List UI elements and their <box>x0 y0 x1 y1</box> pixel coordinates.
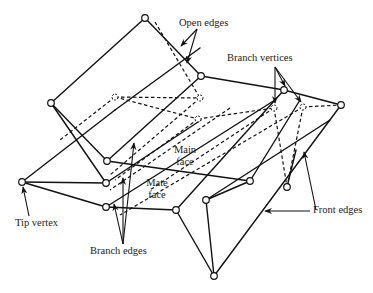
label-main-face-line2: face <box>170 156 200 168</box>
label-main-face-line1: Main <box>170 144 200 156</box>
vertex-O <box>173 207 180 214</box>
vertex-T <box>211 273 218 280</box>
vertex-K-tip <box>19 179 26 186</box>
vertex-E <box>338 102 345 109</box>
vertex-L <box>104 158 111 165</box>
vertex-H <box>195 116 201 122</box>
label-branch-vertices: Branch vertices <box>227 52 293 64</box>
label-mate-face-line1: Mate <box>142 177 172 189</box>
vertex-N <box>103 204 110 211</box>
branch-vertex-J <box>300 104 306 110</box>
label-front-edges: Front edges <box>313 204 362 216</box>
vertex-R <box>203 197 210 204</box>
vertex-A <box>142 15 149 22</box>
vertex-M <box>103 180 110 187</box>
label-tip-vertex: Tip vertex <box>15 217 58 229</box>
branch-vertex-D <box>281 87 288 94</box>
vertex-G <box>197 95 203 101</box>
label-mate-face-line2: face <box>142 189 172 201</box>
vertex-C <box>198 73 205 80</box>
vertex-B <box>48 100 55 107</box>
label-main-face: Main face <box>170 144 200 168</box>
label-open-edges: Open edges <box>179 17 228 29</box>
vertex-F <box>112 94 118 100</box>
vertex-P <box>247 178 254 185</box>
branch-vertex-I <box>271 105 277 111</box>
vertex-S <box>284 184 291 191</box>
label-branch-edges: Branch edges <box>90 245 147 257</box>
label-mate-face: Mate face <box>142 177 172 201</box>
